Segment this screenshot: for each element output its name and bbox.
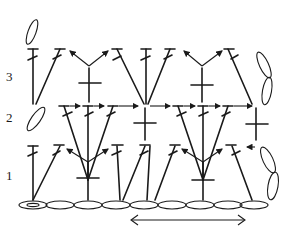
repeat-arrow	[131, 215, 245, 225]
foundation-chain	[19, 201, 268, 209]
crochet-chart	[0, 0, 291, 239]
row-1	[28, 145, 252, 200]
row-3	[24, 18, 274, 105]
row-2	[24, 105, 268, 180]
turning-chain-row1	[247, 145, 280, 200]
